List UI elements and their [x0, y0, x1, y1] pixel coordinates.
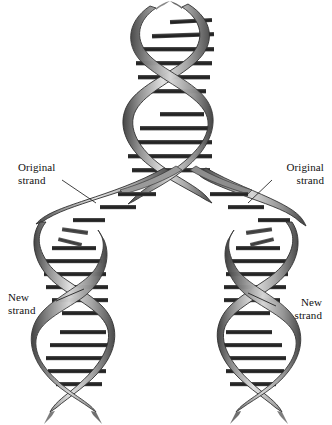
- right-bottom-tip-b: [230, 411, 241, 424]
- parent-top-tip-a: [170, 1, 182, 9]
- parent-top-tip-b: [156, 1, 170, 10]
- unpaired-bases-right: [210, 192, 290, 247]
- right-daughter-helix: [217, 222, 301, 424]
- label-new-strand-right: New strand: [295, 296, 322, 321]
- left-bottom-tip-b: [91, 411, 102, 424]
- label-new-strand-left: New strand: [8, 291, 35, 316]
- dna-replication-figure: Original strand Original strand New stra…: [0, 0, 332, 425]
- left-daughter-helix: [31, 222, 115, 424]
- label-original-strand-right: Original strand: [287, 161, 324, 186]
- dna-replication-illustration: [0, 0, 332, 425]
- label-line-1: New: [295, 296, 322, 309]
- label-line-2: strand: [295, 309, 322, 322]
- left-bottom-tip-a: [44, 411, 55, 424]
- label-line-1: New: [8, 291, 35, 304]
- label-line-2: strand: [18, 174, 55, 187]
- leader-original-left: [62, 180, 96, 203]
- label-original-strand-left: Original strand: [18, 161, 55, 186]
- label-line-1: Original: [18, 161, 55, 174]
- label-line-2: strand: [287, 174, 324, 187]
- label-line-2: strand: [8, 304, 35, 317]
- unpaired-bases-left: [58, 192, 156, 247]
- label-line-1: Original: [287, 161, 324, 174]
- right-bottom-tip-a: [277, 411, 288, 424]
- fork-crossover-right: [190, 166, 252, 194]
